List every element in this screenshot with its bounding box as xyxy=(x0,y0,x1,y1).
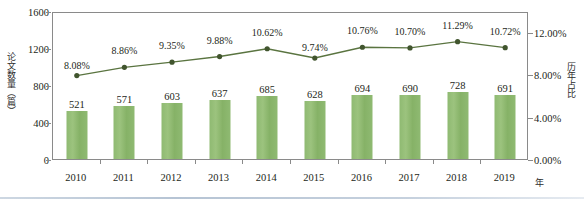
x-axis-tickmark xyxy=(100,160,101,164)
y-axis-left-tickmark xyxy=(46,49,51,50)
y-axis-left-tickmark xyxy=(46,12,51,13)
y-axis-right-tick-label: 8.00% xyxy=(534,70,584,81)
y-axis-right-tick-label: 4.00% xyxy=(534,112,584,123)
x-axis-tickmark xyxy=(338,160,339,164)
bar-value-label: 685 xyxy=(259,84,275,95)
y-axis-left-tickmark xyxy=(46,160,51,161)
x-axis-tickmark xyxy=(290,160,291,164)
x-axis-tickmark xyxy=(385,160,386,164)
x-axis-tick-label: 2016 xyxy=(351,172,372,183)
x-axis-tickmark xyxy=(433,160,434,164)
percent-value-label: 10.70% xyxy=(395,26,426,37)
y-axis-left-tick-label: 1200 xyxy=(3,44,49,55)
x-axis-tick-label: 2010 xyxy=(65,172,86,183)
line-marker xyxy=(217,54,222,59)
chart-figure: 论文数量（篇） 历年占比 年 040080012001600 0.00%4.00… xyxy=(0,0,584,202)
y-axis-left-tick-label: 800 xyxy=(3,81,49,92)
y-axis-right-ticks: 0.00%4.00%8.00%12.00% xyxy=(534,0,584,202)
percent-value-label: 8.08% xyxy=(64,60,90,71)
bar-value-label: 694 xyxy=(355,83,371,94)
bar-value-label: 690 xyxy=(402,83,418,94)
bar-value-label: 603 xyxy=(164,91,180,102)
x-axis-tick-label: 2011 xyxy=(113,172,134,183)
y-axis-left-tick-label: 1600 xyxy=(3,7,49,18)
y-axis-right-tickmark xyxy=(528,75,533,76)
y-axis-left-tick-label: 0 xyxy=(3,155,49,166)
x-axis-tick-label: 2019 xyxy=(494,172,515,183)
percent-value-label: 11.29% xyxy=(442,20,472,31)
y-axis-left-tickmark xyxy=(46,123,51,124)
x-axis-tick-label: 2012 xyxy=(161,172,182,183)
line-marker xyxy=(503,45,508,50)
bar-value-label: 628 xyxy=(307,89,323,100)
line-marker xyxy=(407,45,412,50)
x-axis-tickmark xyxy=(147,160,148,164)
percent-value-label: 8.86% xyxy=(111,45,137,56)
bar-value-label: 637 xyxy=(212,88,228,99)
bar-value-label: 691 xyxy=(497,83,513,94)
y-axis-right-tickmark xyxy=(528,160,533,161)
y-axis-right-tickmark xyxy=(528,33,533,34)
bottom-rule xyxy=(0,197,584,199)
line-marker xyxy=(455,39,460,44)
x-axis-tick-label: 2014 xyxy=(256,172,277,183)
line-path xyxy=(77,42,505,76)
x-axis-tick-label: 2015 xyxy=(303,172,324,183)
line-marker xyxy=(74,73,79,78)
line-markers xyxy=(74,39,508,78)
y-axis-left-tickmark xyxy=(46,86,51,87)
x-axis-tick-label: 2017 xyxy=(399,172,420,183)
line-marker xyxy=(122,65,127,70)
bar-value-label: 571 xyxy=(117,94,133,105)
percent-value-label: 10.72% xyxy=(490,26,521,37)
percent-value-label: 10.62% xyxy=(252,27,283,38)
x-axis-tickmark xyxy=(195,160,196,164)
line-marker xyxy=(360,45,365,50)
bar-value-label: 521 xyxy=(69,99,85,110)
percent-value-label: 9.88% xyxy=(207,35,233,46)
bar-value-label: 728 xyxy=(450,80,466,91)
percent-value-label: 9.74% xyxy=(302,42,328,53)
y-axis-right-tickmark xyxy=(528,118,533,119)
y-axis-right-tick-label: 12.00% xyxy=(534,28,584,39)
x-axis-tickmark xyxy=(242,160,243,164)
line-marker xyxy=(312,55,317,60)
x-axis-tickmark xyxy=(480,160,481,164)
x-axis-tick-label: 2018 xyxy=(446,172,467,183)
percent-value-label: 10.76% xyxy=(347,25,378,36)
y-axis-right-tick-label: 0.00% xyxy=(534,155,584,166)
line-marker xyxy=(169,60,174,65)
y-axis-left-tick-label: 400 xyxy=(3,118,49,129)
y-axis-left-ticks: 040080012001600 xyxy=(0,0,49,202)
percent-value-label: 9.35% xyxy=(159,40,185,51)
plot-area: 8.08%8.86%9.35%9.88%10.62%9.74%10.76%10.… xyxy=(52,12,528,160)
line-marker xyxy=(265,46,270,51)
x-axis-tick-label: 2013 xyxy=(208,172,229,183)
